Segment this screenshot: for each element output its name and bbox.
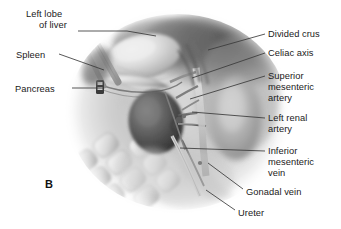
- label-pancreas: Pancreas: [15, 84, 55, 95]
- label-divided-crus: Divided crus: [268, 29, 320, 40]
- label-celiac-axis-line1: Celiac axis: [268, 48, 314, 59]
- label-inferior-mesenteric-vein-line3: vein: [268, 168, 314, 179]
- label-spleen: Spleen: [16, 50, 45, 61]
- label-left-lobe-of-liver: Left lobe of liver: [26, 9, 67, 31]
- label-superior-mesenteric-artery: Superior mesenteric artery: [268, 71, 314, 103]
- label-superior-mesenteric-artery-line3: artery: [268, 93, 314, 104]
- label-superior-mesenteric-artery-line1: Superior: [268, 71, 314, 82]
- label-left-lobe-of-liver-line2: of liver: [39, 20, 67, 31]
- label-inferior-mesenteric-vein-line1: Inferior: [268, 146, 314, 157]
- label-superior-mesenteric-artery-line2: mesenteric: [268, 82, 314, 93]
- label-celiac-axis: Celiac axis: [268, 48, 314, 59]
- label-ureter-line1: Ureter: [238, 208, 264, 219]
- label-inferior-mesenteric-vein: Inferior mesenteric vein: [268, 146, 314, 178]
- figure-panel: Left lobe of liver Spleen Pancreas Divid…: [0, 0, 341, 229]
- label-left-renal-artery: Left renal artery: [268, 113, 307, 135]
- label-ureter: Ureter: [238, 208, 264, 219]
- label-spleen-line1: Spleen: [16, 50, 45, 61]
- figure-letter: B: [45, 178, 53, 190]
- contralateral-kidney: [211, 76, 261, 160]
- label-gonadal-vein-line1: Gonadal vein: [246, 187, 301, 198]
- label-left-renal-artery-line2: artery: [268, 124, 307, 135]
- label-left-lobe-of-liver-line1: Left lobe: [26, 9, 67, 20]
- label-inferior-mesenteric-vein-line2: mesenteric: [268, 157, 314, 168]
- label-pancreas-line1: Pancreas: [15, 84, 55, 95]
- label-gonadal-vein: Gonadal vein: [246, 187, 301, 198]
- label-left-renal-artery-line1: Left renal: [268, 113, 307, 124]
- label-divided-crus-line1: Divided crus: [268, 29, 320, 40]
